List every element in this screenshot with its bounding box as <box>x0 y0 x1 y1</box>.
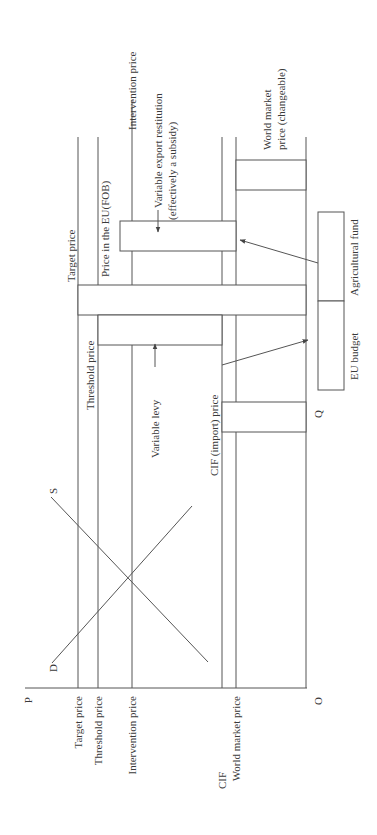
axis-label-intervention-price: Intervention price <box>126 696 138 775</box>
label-cif-import-price: CIF (import) price <box>208 395 221 476</box>
label-world-market-changeable: price (changeable) <box>275 68 288 150</box>
axis-label-world-market-price: World market price <box>230 696 242 781</box>
q-axis-label: Q <box>312 410 324 418</box>
demand-label: D <box>47 664 59 672</box>
demand-curve <box>52 506 192 663</box>
label-variable-export-restitution: Variable export restitution <box>152 93 164 208</box>
p-axis-label: P <box>22 697 34 703</box>
origin-label: O <box>312 697 324 705</box>
label-agricultural-fund: Agricultural fund <box>348 219 360 296</box>
label-threshold-price: Threshold price <box>84 341 96 410</box>
axis-label-target-price: Target price <box>72 696 84 749</box>
label-variable-levy: Variable levy <box>149 399 161 458</box>
label-intervention-price: Intervention price <box>126 51 138 130</box>
label-world-market: World market <box>261 89 273 150</box>
threshold-price-bar <box>98 315 222 345</box>
world-market-price-bar <box>236 160 306 190</box>
label-effectively-subsidy: (effectively a subsidy) <box>166 122 179 220</box>
label-target-price: Target price <box>65 229 77 282</box>
eu-budget-box <box>318 301 344 390</box>
eu-cap-price-diagram: P O Q S D Target price Threshold price I… <box>0 0 377 835</box>
cif-import-price-bar <box>222 402 306 432</box>
target-price-bar <box>78 285 306 315</box>
label-price-eu-fob: Price in the EU(FOB) <box>99 180 112 277</box>
axis-label-threshold-price: Threshold price <box>92 696 104 765</box>
agricultural-fund-box <box>318 212 344 301</box>
supply-label: S <box>47 488 59 494</box>
label-eu-budget: EU budget <box>348 333 360 380</box>
axis-label-cif: CIF <box>216 772 228 789</box>
export-restitution-bar <box>120 221 236 251</box>
levy-to-budget-arrow <box>222 340 308 365</box>
